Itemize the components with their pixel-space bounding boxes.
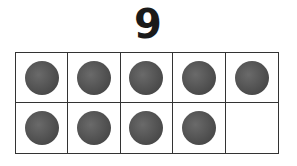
number-label: 9 — [128, 2, 168, 46]
counter-dot-icon — [182, 111, 216, 145]
ten-frame — [15, 52, 279, 154]
counter-dot-icon — [77, 111, 111, 145]
counter-dot-icon — [129, 61, 163, 95]
counter-dot-icon — [235, 61, 269, 95]
counter-dot-icon — [182, 61, 216, 95]
counter-dot-icon — [77, 61, 111, 95]
ten-frame-cell — [226, 103, 278, 153]
ten-frame-cell — [173, 53, 225, 103]
ten-frame-cell — [68, 103, 120, 153]
counter-dot-icon — [25, 61, 59, 95]
ten-frame-cell — [226, 53, 278, 103]
counter-dot-icon — [129, 111, 163, 145]
ten-frame-cell — [16, 103, 68, 153]
ten-frame-cell — [16, 53, 68, 103]
ten-frame-cell — [173, 103, 225, 153]
ten-frame-cell — [121, 53, 173, 103]
ten-frame-cell — [121, 103, 173, 153]
ten-frame-cell — [68, 53, 120, 103]
counter-dot-icon — [25, 111, 59, 145]
